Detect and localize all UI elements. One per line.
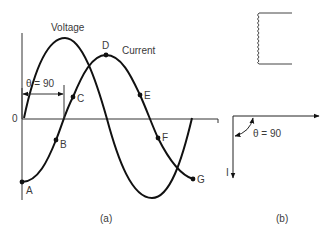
point-f-dot bbox=[156, 136, 161, 141]
point-g-dot bbox=[191, 177, 196, 182]
angle-arc bbox=[235, 118, 253, 136]
point-e-dot bbox=[138, 93, 143, 98]
inductor-symbol bbox=[258, 13, 293, 64]
current-phasor-label: I bbox=[226, 168, 229, 178]
voltage-curve bbox=[24, 38, 192, 198]
figure-a-axes bbox=[22, 33, 218, 200]
diagram-canvas bbox=[0, 0, 332, 235]
point-a-label: A bbox=[26, 186, 33, 196]
figure-a-caption: (a) bbox=[100, 214, 112, 224]
point-b-label: B bbox=[60, 140, 67, 150]
point-a-dot bbox=[20, 180, 25, 185]
phase-angle-label: θ = 90 bbox=[26, 79, 54, 89]
current-label: Current bbox=[122, 46, 155, 56]
point-c-dot bbox=[71, 95, 76, 100]
origin-label: 0 bbox=[12, 114, 18, 124]
inductor-coil bbox=[258, 13, 260, 64]
figure-b-caption: (b) bbox=[276, 214, 288, 224]
phasor-angle-label: θ = 90 bbox=[253, 129, 281, 139]
point-d-label: D bbox=[102, 41, 109, 51]
point-d-dot bbox=[104, 53, 109, 58]
point-g-label: G bbox=[197, 175, 205, 185]
voltage-label: Voltage bbox=[51, 23, 84, 33]
point-f-label: F bbox=[162, 133, 168, 143]
point-e-label: E bbox=[144, 91, 151, 101]
phasor-diagram bbox=[233, 116, 319, 178]
point-b-dot bbox=[54, 138, 59, 143]
point-c-label: C bbox=[77, 94, 84, 104]
